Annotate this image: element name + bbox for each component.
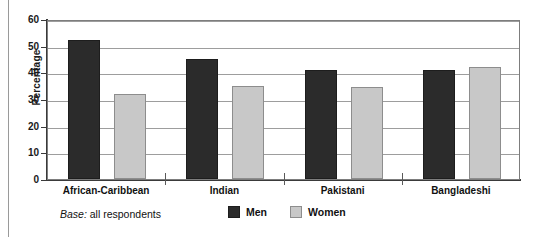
category-label: African-Caribbean [47, 185, 165, 196]
category-label: Bangladeshi [402, 185, 520, 196]
y-axis-tick-mark [41, 180, 47, 181]
bar-men [423, 70, 455, 179]
legend-swatch-women-icon [290, 206, 302, 218]
bar-women [469, 67, 501, 179]
category-separator-tick [402, 173, 403, 185]
y-axis-tick-label: 50 [9, 42, 39, 52]
y-axis-tick-label: 20 [9, 122, 39, 132]
gridline [48, 21, 519, 22]
y-axis-tick-mark [41, 100, 47, 101]
y-axis-tick-mark [41, 20, 47, 21]
y-axis-tick-mark [41, 47, 47, 48]
bar-women [351, 87, 383, 179]
bar-men [68, 40, 100, 179]
base-note: Base: all respondents [60, 208, 161, 220]
base-note-label: Base: [60, 208, 87, 220]
legend-label-women: Women [308, 206, 346, 218]
legend-label-men: Men [246, 206, 267, 218]
plot-area [47, 20, 520, 180]
legend-swatch-men-icon [228, 206, 240, 218]
y-axis-tick-label: 30 [9, 95, 39, 105]
y-axis-tick-label: 0 [9, 175, 39, 185]
y-axis-tick-mark [41, 127, 47, 128]
category-separator-tick [165, 173, 166, 185]
bar-men [186, 59, 218, 179]
bar-women [114, 94, 146, 179]
y-axis-tick-label: 60 [9, 15, 39, 25]
category-separator-tick [284, 173, 285, 185]
category-label: Pakistani [284, 185, 402, 196]
y-axis-tick-mark [41, 73, 47, 74]
legend-item-men: Men [228, 206, 267, 218]
chart-figure: Percentage 0102030405060 African-Caribbe… [0, 0, 540, 237]
y-axis-tick-label: 10 [9, 148, 39, 158]
base-note-text: all respondents [87, 208, 161, 220]
bar-men [305, 70, 337, 179]
y-axis-tick-labels: 0102030405060 [5, 0, 39, 237]
y-axis-tick-label: 40 [9, 68, 39, 78]
legend-item-women: Women [290, 206, 346, 218]
y-axis-tick-mark [41, 153, 47, 154]
category-label: Indian [165, 185, 283, 196]
gridline [48, 48, 519, 49]
bar-women [232, 86, 264, 179]
